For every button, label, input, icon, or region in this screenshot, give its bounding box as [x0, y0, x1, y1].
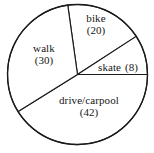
- slice-label-skate: skate (8): [98, 62, 152, 74]
- slice-label-skate-name: skate: [98, 61, 121, 73]
- slice-label-bike-name: bike: [70, 13, 122, 25]
- slice-label-bike: bike (20): [70, 13, 122, 36]
- pie-chart: bike (20) walk (30) skate (8) drive/carp…: [0, 0, 154, 153]
- slice-label-drive-carpool: drive/carpool (42): [44, 95, 134, 118]
- slice-label-walk: walk (30): [18, 43, 70, 66]
- slice-label-drive-carpool-value: (42): [44, 107, 134, 119]
- slice-label-walk-name: walk: [18, 43, 70, 55]
- slice-label-bike-value: (20): [70, 25, 122, 37]
- slice-label-walk-value: (30): [18, 55, 70, 67]
- slice-label-skate-value: (8): [125, 61, 138, 73]
- slice-label-drive-carpool-name: drive/carpool: [44, 95, 134, 107]
